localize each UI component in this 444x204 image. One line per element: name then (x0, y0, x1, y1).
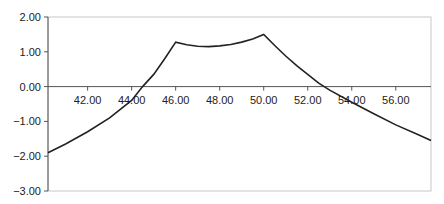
x-tick-label: 46.00 (162, 94, 190, 106)
y-tick-label: 2.00 (20, 11, 41, 23)
data-series-line (48, 34, 431, 152)
x-tick-label: 54.00 (338, 94, 366, 106)
x-tick-label: 52.00 (294, 94, 322, 106)
y-tick-label: 0.00 (20, 81, 41, 93)
x-tick-label: 56.00 (382, 94, 410, 106)
y-tick-label: −1.00 (13, 115, 41, 127)
plot-area: 2.001.000.00−1.00−2.00−3.00 42.0044.0046… (13, 11, 431, 197)
y-tick-label: −3.00 (13, 185, 41, 197)
line-chart: 2.001.000.00−1.00−2.00−3.00 42.0044.0046… (0, 0, 444, 204)
x-tick-label: 42.00 (74, 94, 102, 106)
x-axis: 42.0044.0046.0048.0050.0052.0054.0056.00 (48, 87, 431, 106)
y-tick-label: −2.00 (13, 150, 41, 162)
y-tick-label: 1.00 (20, 46, 41, 58)
y-axis: 2.001.000.00−1.00−2.00−3.00 (13, 11, 48, 197)
x-tick-label: 50.00 (250, 94, 278, 106)
x-tick-label: 48.00 (206, 94, 234, 106)
